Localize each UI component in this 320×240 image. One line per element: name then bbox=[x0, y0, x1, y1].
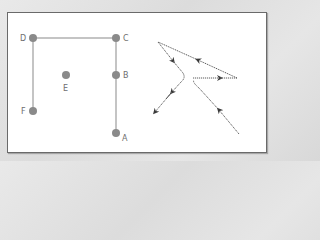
point-b bbox=[112, 71, 120, 79]
point-e bbox=[62, 71, 70, 79]
point-labels: D C B E F A bbox=[20, 34, 129, 143]
label-d: D bbox=[20, 34, 26, 43]
label-e: E bbox=[63, 84, 68, 93]
label-b: B bbox=[123, 71, 129, 80]
arrow-path-diagram bbox=[155, 42, 239, 134]
point-f bbox=[29, 107, 37, 115]
label-f: F bbox=[21, 107, 26, 116]
diagram-canvas: D C B E F A bbox=[0, 0, 276, 161]
point-connections bbox=[33, 38, 116, 133]
label-c: C bbox=[123, 34, 129, 43]
point-c bbox=[112, 34, 120, 42]
point-d bbox=[29, 34, 37, 42]
points bbox=[29, 34, 120, 137]
point-a bbox=[112, 129, 120, 137]
label-a: A bbox=[122, 134, 128, 143]
